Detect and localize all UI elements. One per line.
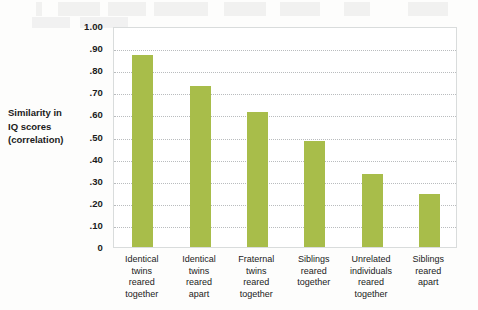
- x-axis-category-label-line: Unrelated: [338, 254, 404, 266]
- y-axis-tick-label: .70: [69, 87, 103, 98]
- plot-area: [113, 27, 457, 248]
- x-axis-category-label-line: together: [281, 277, 347, 289]
- x-axis-category-label-line: reared: [338, 277, 404, 289]
- x-axis-category-label-line: twins: [166, 266, 232, 278]
- y-axis-tick-label: 0: [69, 242, 103, 253]
- x-axis-category-label-line: reared: [281, 266, 347, 278]
- gridline: [114, 227, 456, 228]
- x-axis-category-label: Siblingsrearedapart: [395, 254, 461, 289]
- x-axis-category-label-line: together: [338, 289, 404, 301]
- y-axis-tick-label: .10: [69, 220, 103, 231]
- gridline: [114, 139, 456, 140]
- scan-artifact-top: [28, 2, 448, 16]
- x-axis-category-label-line: together: [109, 289, 175, 301]
- x-axis-category-label-line: reared: [109, 277, 175, 289]
- y-axis-tick-label: .80: [69, 65, 103, 76]
- gridline: [114, 161, 456, 162]
- y-axis-tick-label: 1.00: [69, 21, 103, 32]
- bar-chart-figure: Similarity in IQ scores (correlation) 1.…: [0, 0, 478, 310]
- gridline: [114, 116, 456, 117]
- y-axis-tick-label: .60: [69, 109, 103, 120]
- gridline: [114, 94, 456, 95]
- bar: [190, 86, 211, 247]
- y-axis-tick-label: .30: [69, 176, 103, 187]
- x-axis-category-label-line: Siblings: [395, 254, 461, 266]
- gridline: [114, 72, 456, 73]
- gridline: [114, 205, 456, 206]
- y-axis-tick-label: .40: [69, 154, 103, 165]
- gridline: [114, 50, 456, 51]
- y-axis-tick-label: .90: [69, 43, 103, 54]
- x-axis-category-label-line: twins: [223, 266, 289, 278]
- x-axis-category-label-line: apart: [395, 277, 461, 289]
- x-axis-category-label-line: together: [223, 289, 289, 301]
- x-axis-category-label: Fraternaltwinsrearedtogether: [223, 254, 289, 300]
- x-axis-category-label-line: reared: [166, 277, 232, 289]
- x-axis-category-label-line: reared: [395, 266, 461, 278]
- bar: [247, 112, 268, 247]
- bar: [132, 55, 153, 247]
- x-axis-category-label-line: individuals: [338, 266, 404, 278]
- x-axis-category-label: Siblingsrearedtogether: [281, 254, 347, 289]
- x-axis-category-label-line: Identical: [166, 254, 232, 266]
- bar: [362, 174, 383, 247]
- x-axis-category-label-line: apart: [166, 289, 232, 301]
- bar: [304, 141, 325, 247]
- x-axis-category-label-line: Siblings: [281, 254, 347, 266]
- y-axis-tick-label: .20: [69, 198, 103, 209]
- x-axis-category-label: Identicaltwinsrearedapart: [166, 254, 232, 300]
- x-axis-category-label-line: Fraternal: [223, 254, 289, 266]
- x-axis-category-label: Identicaltwinsrearedtogether: [109, 254, 175, 300]
- y-axis-tick-label: .50: [69, 132, 103, 143]
- x-axis-category-label-line: reared: [223, 277, 289, 289]
- x-axis-category-label-line: Identical: [109, 254, 175, 266]
- gridline: [114, 183, 456, 184]
- bar: [419, 194, 440, 247]
- x-axis-category-label: Unrelatedindividualsrearedtogether: [338, 254, 404, 300]
- x-axis-category-label-line: twins: [109, 266, 175, 278]
